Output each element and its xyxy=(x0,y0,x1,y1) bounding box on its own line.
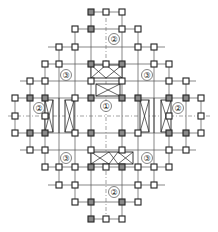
zone-3-bottom-right-label: ③ xyxy=(143,154,150,163)
zone-3-bottom-right-marker: ③ xyxy=(142,153,153,164)
zone-2-top-marker: ② xyxy=(109,34,120,45)
zone-2-right-marker: ② xyxy=(173,103,184,114)
zone-3-top-right-marker: ③ xyxy=(142,70,153,81)
zone-3-top-right-label: ③ xyxy=(143,71,150,80)
zone-1-center-marker: ① xyxy=(101,101,112,112)
zone-2-left-marker: ② xyxy=(34,103,45,114)
zone-2-bottom-label: ② xyxy=(110,188,117,197)
zone-2-left-label: ② xyxy=(35,104,42,113)
zone-2-bottom-marker: ② xyxy=(109,187,120,198)
zone-3-bottom-left-label: ③ xyxy=(62,154,69,163)
zone-2-right-label: ② xyxy=(174,104,181,113)
zone-3-bottom-left-marker: ③ xyxy=(61,153,72,164)
zone-3-top-left-label: ③ xyxy=(62,71,69,80)
floor-plan-diagram: ① ② ② ② ② ③ ③ ③ xyxy=(0,0,218,232)
columns xyxy=(12,9,204,222)
zone-3-top-left-marker: ③ xyxy=(61,70,72,81)
zone-1-center-label: ① xyxy=(102,102,109,111)
center-axes xyxy=(8,18,210,214)
zone-2-top-label: ② xyxy=(110,35,117,44)
